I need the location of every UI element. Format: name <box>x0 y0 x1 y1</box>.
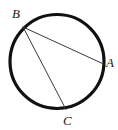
point-label-a: A <box>106 56 114 69</box>
point-label-b: B <box>12 7 20 20</box>
chord-b-to-c <box>23 27 66 110</box>
geometry-figure: B A C <box>0 0 118 130</box>
chord-b-to-a <box>23 27 104 64</box>
point-label-c: C <box>63 114 72 127</box>
